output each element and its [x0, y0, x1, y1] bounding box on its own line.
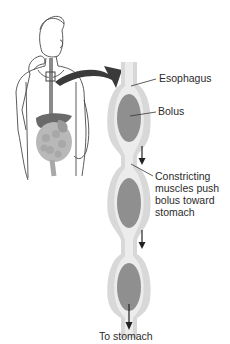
bolus-2	[117, 178, 141, 228]
label-constricting-muscles: Constricting muscles push bolus toward s…	[155, 170, 219, 218]
bolus-1	[117, 94, 141, 142]
curved-callout-arrow	[55, 66, 122, 88]
label-to-stomach: To stomach	[99, 330, 153, 342]
label-esophagus: Esophagus	[159, 72, 212, 84]
inset-esophagus	[46, 58, 55, 116]
bolus-3	[117, 263, 141, 311]
intestines	[36, 120, 72, 176]
label-bolus: Bolus	[158, 105, 184, 117]
